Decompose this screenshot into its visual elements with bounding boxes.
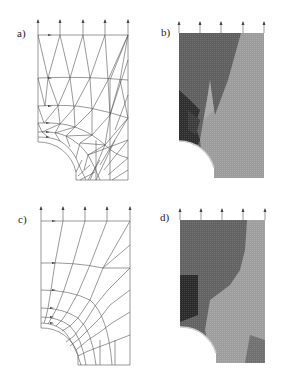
figure: a) b) c) d) (0, 0, 281, 381)
panel-d-contour (0, 0, 281, 381)
